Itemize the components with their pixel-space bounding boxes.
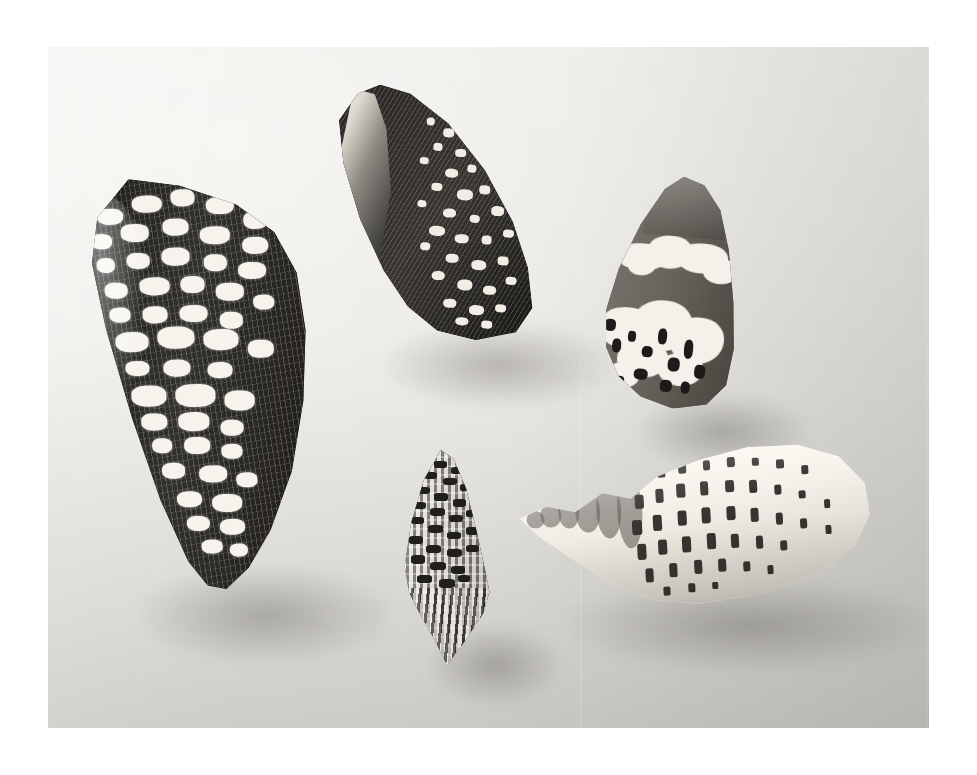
shell-pale-shading (516, 427, 875, 620)
shell-textile-outline (73, 173, 319, 594)
shell-cloud-outline (586, 170, 756, 414)
shell-cloud-spire (643, 174, 729, 241)
shell-cloud-banded-cone (586, 170, 756, 414)
shell-textile-cone (73, 173, 319, 594)
shell-spindle-outline (392, 450, 498, 665)
backdrop-seam-right (926, 47, 928, 728)
shell-aperture-view-cone (324, 82, 555, 343)
photo-page (0, 0, 977, 775)
backdrop-seam (580, 47, 582, 728)
shell-pale-outline (516, 427, 875, 620)
shell-spindle-ribs (403, 588, 488, 665)
shell-spindle (392, 450, 498, 665)
shell-aperture-outline (324, 82, 555, 343)
shell-pale-dashed-cone (516, 427, 875, 620)
photograph (48, 47, 929, 728)
